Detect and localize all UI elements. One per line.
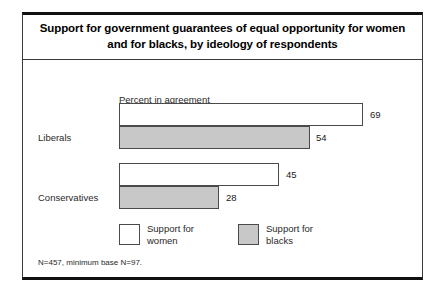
plot-area: Percent in agreement Liberals Conservati… bbox=[23, 61, 422, 277]
bar-liberals-support-for-women bbox=[119, 103, 363, 126]
category-label-liberals: Liberals bbox=[38, 132, 71, 143]
bar-liberals-support-for-blacks bbox=[119, 126, 310, 149]
legend-swatch-gray-icon bbox=[238, 224, 259, 245]
footnote: N=457, minimum base N=97. bbox=[38, 258, 142, 267]
legend-swatch-white-icon bbox=[119, 224, 140, 245]
legend-label-support-for-blacks: Support for blacks bbox=[266, 223, 313, 247]
bar-value-conservatives-support-for-blacks: 28 bbox=[226, 186, 237, 209]
bar-value-conservatives-support-for-women: 45 bbox=[286, 163, 297, 186]
legend-item-support-for-blacks: Support for blacks bbox=[238, 223, 313, 247]
bar-value-liberals-support-for-women: 69 bbox=[370, 103, 381, 126]
figure-frame: Support for government guarantees of equ… bbox=[22, 12, 423, 280]
legend: Support for women Support for blacks bbox=[119, 223, 313, 247]
category-label-conservatives: Conservatives bbox=[38, 192, 98, 203]
bar-conservatives-support-for-blacks bbox=[119, 186, 219, 209]
bar-conservatives-support-for-women bbox=[119, 163, 279, 186]
chart-title: Support for government guarantees of equ… bbox=[23, 21, 422, 52]
legend-item-support-for-women: Support for women bbox=[119, 223, 194, 247]
legend-label-support-for-women: Support for women bbox=[147, 223, 194, 247]
title-band: Support for government guarantees of equ… bbox=[23, 15, 422, 60]
bar-value-liberals-support-for-blacks: 54 bbox=[316, 126, 327, 149]
